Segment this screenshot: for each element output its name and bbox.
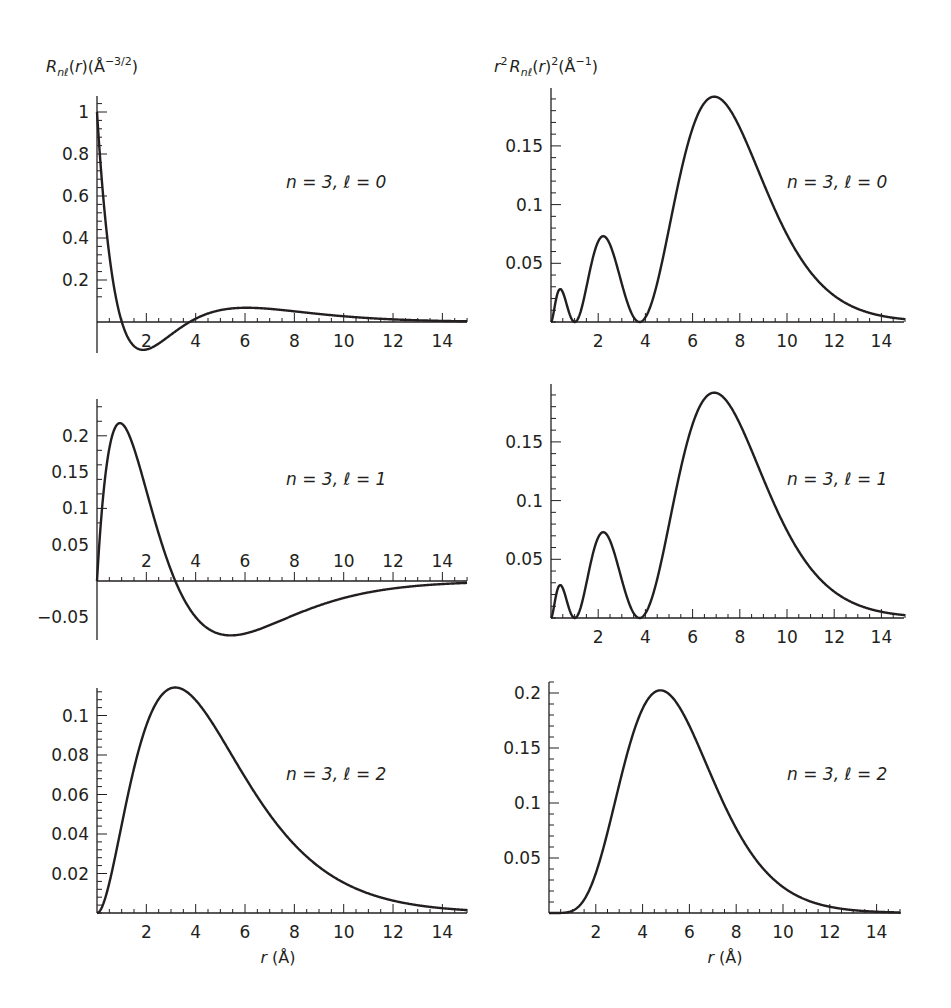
y-tick-label: 0.04 (51, 824, 89, 844)
x-tick-label: 2 (593, 627, 604, 647)
x-tick-label: 4 (637, 922, 648, 942)
y-tick-label: 0.05 (51, 535, 89, 555)
x-tick-label: 8 (731, 922, 742, 942)
panel-annotation: n = 3, ℓ = 2 (286, 764, 386, 784)
y-tick-label: 0.05 (505, 549, 543, 569)
x-tick-label: 6 (687, 331, 698, 351)
x-tick-label: 14 (871, 627, 893, 647)
x-tick-label: 12 (819, 922, 841, 942)
y-tick-label: 0.15 (505, 432, 543, 452)
panel-left-2: 2468101214−0.050.050.10.150.2n = 3, ℓ = … (37, 399, 467, 640)
x-tick-label: 12 (382, 551, 404, 571)
x-tick-label: 6 (240, 551, 251, 571)
y-tick-label: 0.06 (51, 785, 89, 805)
x-tick-label: 10 (772, 922, 794, 942)
x-tick-label: 10 (333, 331, 355, 351)
x-tick-label: 2 (141, 922, 152, 942)
panel-annotation: n = 3, ℓ = 1 (286, 469, 386, 489)
x-tick-label: 4 (190, 331, 201, 351)
y-tick-label: 0.1 (516, 195, 543, 215)
panel-right-2: 24681012140.050.10.15n = 3, ℓ = 1 (505, 384, 905, 647)
left-ylabel: Rnℓ(r)(Å−3/2) (46, 55, 138, 79)
x-tick-label: 6 (687, 627, 698, 647)
x-tick-label: 12 (823, 627, 845, 647)
x-tick-label: 6 (240, 331, 251, 351)
y-tick-label: 0.2 (62, 270, 89, 290)
y-tick-label: 0.1 (514, 793, 541, 813)
x-tick-label: 12 (382, 331, 404, 351)
x-tick-label: 8 (734, 331, 745, 351)
y-tick-label: 0.2 (514, 683, 541, 703)
x-tick-label: 14 (432, 331, 454, 351)
x-tick-label: 14 (866, 922, 888, 942)
x-tick-label: 10 (776, 331, 798, 351)
x-tick-label: 8 (289, 551, 300, 571)
curve-p3 (97, 423, 467, 635)
curve-p4 (551, 393, 905, 618)
curve-p6 (549, 690, 900, 913)
y-tick-label: 0.05 (503, 848, 541, 868)
panel-left-1: 24681012140.20.40.60.81n = 3, ℓ = 0 (62, 96, 467, 353)
y-tick-label: 0.15 (51, 462, 89, 482)
panel-right-1: 24681012140.050.10.15n = 3, ℓ = 0 (505, 88, 905, 351)
curve-p1 (97, 112, 467, 350)
y-tick-label: 0.8 (62, 144, 89, 164)
x-tick-label: 8 (734, 627, 745, 647)
x-tick-label: 6 (240, 922, 251, 942)
x-tick-label: 2 (141, 551, 152, 571)
y-tick-label: 0.02 (51, 864, 89, 884)
y-tick-label: 0.08 (51, 745, 89, 765)
x-tick-label: 10 (333, 551, 355, 571)
panel-right-3: 24681012140.050.10.150.2n = 3, ℓ = 2 (503, 682, 901, 942)
x-tick-label: 4 (190, 551, 201, 571)
x-tick-label: 14 (871, 331, 893, 351)
radial-wavefunction-figure: Rnℓ(r)(Å−3/2) r2Rnℓ(r)2(Å−1) 24681012140… (0, 0, 951, 1008)
x-tick-label: 10 (776, 627, 798, 647)
x-tick-label: 14 (432, 922, 454, 942)
y-tick-label: 0.1 (516, 491, 543, 511)
x-tick-label: 2 (593, 331, 604, 351)
x-tick-label: 8 (289, 331, 300, 351)
panel-annotation: n = 3, ℓ = 0 (286, 172, 386, 192)
y-tick-label: 0.15 (505, 136, 543, 156)
y-tick-label: 0.1 (62, 498, 89, 518)
panel-annotation: n = 3, ℓ = 2 (787, 764, 887, 784)
y-tick-label: 1 (78, 102, 89, 122)
curve-p5 (97, 688, 467, 913)
y-tick-label: 0.4 (62, 228, 89, 248)
y-tick-label: 0.2 (62, 426, 89, 446)
y-tick-label: 0.1 (62, 706, 89, 726)
left-xlabel: r (Å) (260, 948, 295, 967)
curve-p2 (551, 97, 905, 322)
x-tick-label: 4 (640, 331, 651, 351)
x-tick-label: 2 (590, 922, 601, 942)
y-tick-label: −0.05 (37, 607, 89, 627)
x-tick-label: 4 (640, 627, 651, 647)
x-tick-label: 8 (289, 922, 300, 942)
x-tick-label: 4 (190, 922, 201, 942)
x-tick-label: 6 (684, 922, 695, 942)
panel-annotation: n = 3, ℓ = 0 (787, 172, 887, 192)
panel-annotation: n = 3, ℓ = 1 (787, 469, 887, 489)
x-tick-label: 12 (382, 922, 404, 942)
x-tick-label: 10 (333, 922, 355, 942)
y-tick-label: 0.05 (505, 253, 543, 273)
right-xlabel: r (Å) (707, 948, 742, 967)
y-tick-label: 0.15 (503, 738, 541, 758)
x-tick-label: 14 (432, 551, 454, 571)
x-tick-label: 12 (823, 331, 845, 351)
right-ylabel: r2Rnℓ(r)2(Å−1) (494, 55, 598, 79)
y-tick-label: 0.6 (62, 186, 89, 206)
panel-left-3: 24681012140.020.040.060.080.1n = 3, ℓ = … (51, 688, 467, 942)
